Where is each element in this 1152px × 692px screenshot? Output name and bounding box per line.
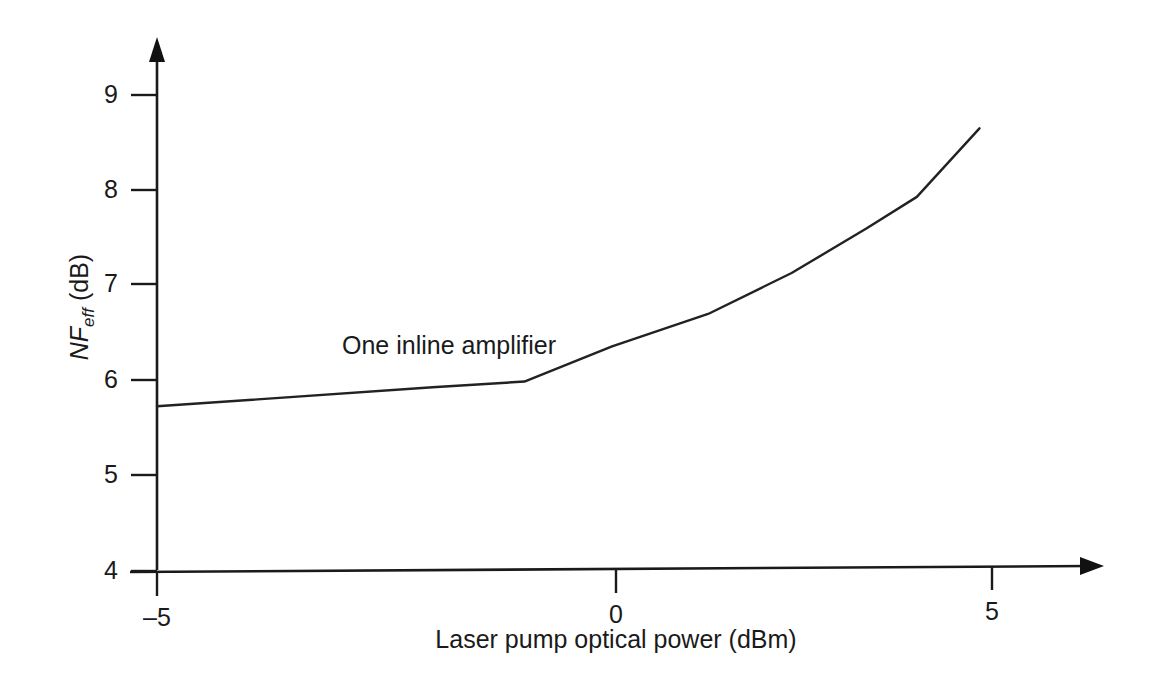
y-axis-ticks (131, 95, 157, 571)
x-tick-label-minus5: –5 (127, 603, 187, 632)
x-axis-title: Laser pump optical power (dBm) (326, 625, 906, 654)
series-annotation-label: One inline amplifier (342, 331, 556, 360)
chart-figure: 9 8 7 6 5 4 –5 0 5 NFeff (dB) Laser pump… (0, 0, 1152, 692)
y-tick-label-9: 9 (78, 80, 118, 109)
y-tick-label-5: 5 (78, 460, 118, 489)
chart-plot-area (0, 0, 1152, 692)
x-tick-label-5: 5 (962, 597, 1022, 626)
y-axis-title: NFeff (dB) (65, 207, 99, 407)
y-axis-title-units: (dB) (65, 254, 93, 301)
y-axis-title-subscript: eff (79, 308, 98, 327)
y-tick-label-4: 4 (78, 556, 118, 585)
data-series-one-inline-amplifier (157, 128, 979, 406)
y-axis-title-symbol: NF (65, 327, 93, 360)
y-axis (149, 37, 165, 570)
y-tick-label-8: 8 (78, 175, 118, 204)
